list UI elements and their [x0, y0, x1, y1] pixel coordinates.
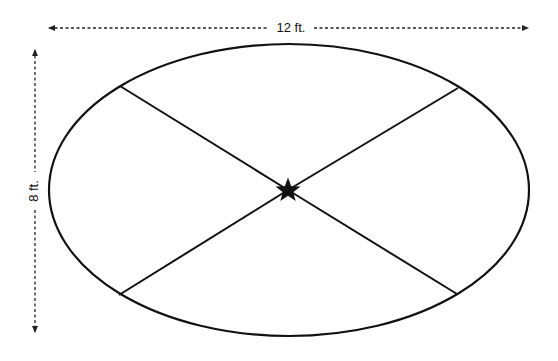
spoke-top-right [288, 88, 458, 190]
height-dimension: 8 ft. [26, 50, 41, 332]
width-dimension: 12 ft. [49, 20, 528, 35]
spoke-bottom-left [119, 190, 288, 295]
spoke-top-left [120, 86, 288, 190]
star-icon [276, 178, 301, 202]
height-label: 8 ft. [26, 180, 41, 202]
spoke-bottom-right [288, 190, 457, 294]
ellipse-diagram: 12 ft. 8 ft. [0, 0, 558, 361]
width-label: 12 ft. [277, 20, 306, 35]
